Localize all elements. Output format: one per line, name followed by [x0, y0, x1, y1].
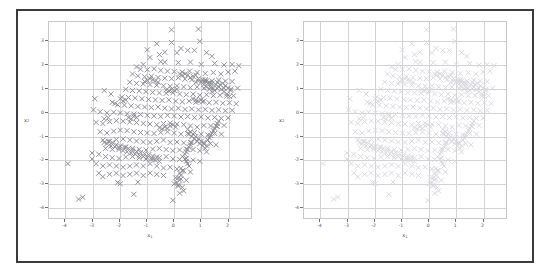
- y-tick-mark: [300, 112, 303, 113]
- scatter-panel-left: -4-3-2-10123210-1-2-3-4 x1 x2: [20, 11, 269, 261]
- x-tick-mark: [173, 219, 174, 222]
- x-tick-mark: [428, 219, 429, 222]
- x-tick-mark: [483, 219, 484, 222]
- x-tick-label: -2: [371, 223, 376, 228]
- y-tick-label: 1: [34, 85, 44, 90]
- x-tick-mark: [146, 219, 147, 222]
- x-tick-mark: [200, 219, 201, 222]
- x-tick-mark: [401, 219, 402, 222]
- y-tick-label: -3: [289, 181, 299, 186]
- x-axis-label-left: x1: [147, 232, 152, 239]
- y-tick-mark: [45, 183, 48, 184]
- y-tick-mark: [45, 207, 48, 208]
- x-tick-label: 0: [427, 223, 430, 228]
- x-tick-mark: [347, 219, 348, 222]
- y-tick-label: 0: [289, 109, 299, 114]
- x-tick-label: 2: [481, 223, 484, 228]
- y-axis-label-right: x2: [279, 117, 284, 124]
- x-tick-mark: [228, 219, 229, 222]
- y-tick-mark: [45, 64, 48, 65]
- x-tick-label: 1: [454, 223, 457, 228]
- y-tick-label: 3: [289, 38, 299, 43]
- figure-frame: -4-3-2-10123210-1-2-3-4 x1 x2 -4-3-2-101…: [16, 9, 534, 263]
- y-tick-mark: [300, 40, 303, 41]
- x-tick-mark: [455, 219, 456, 222]
- x-tick-label: 0: [172, 223, 175, 228]
- y-tick-label: -2: [34, 157, 44, 162]
- x-tick-label: -1: [399, 223, 404, 228]
- y-tick-mark: [45, 112, 48, 113]
- y-tick-label: 1: [289, 85, 299, 90]
- x-tick-mark: [64, 219, 65, 222]
- y-tick-mark: [300, 88, 303, 89]
- y-tick-label: -3: [34, 181, 44, 186]
- y-tick-label: 2: [34, 61, 44, 66]
- x-tick-label: -4: [62, 223, 67, 228]
- scatter-points-right: [304, 22, 506, 218]
- y-tick-label: 2: [289, 61, 299, 66]
- y-tick-label: -4: [289, 205, 299, 210]
- x-tick-label: -1: [144, 223, 149, 228]
- scatter-panel-right: -4-3-2-10123210-1-2-3-4 x1 x2: [275, 11, 524, 261]
- y-tick-label: -2: [289, 157, 299, 162]
- y-tick-mark: [300, 136, 303, 137]
- y-tick-label: -1: [289, 133, 299, 138]
- x-tick-mark: [119, 219, 120, 222]
- x-tick-label: 2: [226, 223, 229, 228]
- plot-area-left: [48, 21, 252, 219]
- y-tick-label: -1: [34, 133, 44, 138]
- y-tick-mark: [300, 159, 303, 160]
- x-tick-label: -3: [89, 223, 94, 228]
- y-tick-mark: [300, 183, 303, 184]
- y-tick-mark: [45, 159, 48, 160]
- y-tick-mark: [300, 207, 303, 208]
- scatter-marker-layer-left: [49, 22, 251, 218]
- plot-area-right: [303, 21, 507, 219]
- x-tick-label: -4: [317, 223, 322, 228]
- y-tick-mark: [300, 64, 303, 65]
- x-tick-label: -2: [116, 223, 121, 228]
- x-axis-label-right: x1: [402, 232, 407, 239]
- x-tick-label: -3: [344, 223, 349, 228]
- y-tick-mark: [45, 40, 48, 41]
- x-tick-label: 1: [199, 223, 202, 228]
- y-tick-label: 0: [34, 109, 44, 114]
- y-tick-mark: [45, 136, 48, 137]
- y-tick-label: -4: [34, 205, 44, 210]
- x-tick-mark: [92, 219, 93, 222]
- y-tick-label: 3: [34, 38, 44, 43]
- scatter-points-left: [49, 22, 251, 218]
- y-tick-mark: [45, 88, 48, 89]
- scatter-marker-layer-right: [304, 22, 506, 218]
- y-axis-label-left: x2: [24, 117, 29, 124]
- x-tick-mark: [319, 219, 320, 222]
- x-tick-mark: [374, 219, 375, 222]
